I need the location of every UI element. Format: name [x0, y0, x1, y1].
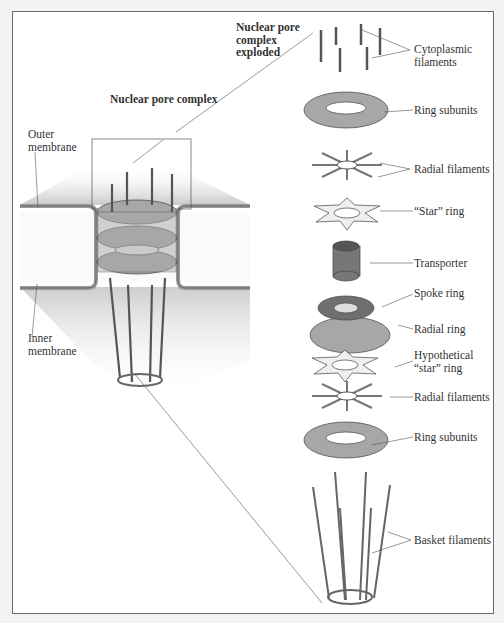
ring-subunits-top	[304, 92, 388, 128]
label-star-ring: “Star” ring	[414, 205, 464, 218]
hypothetical-star-ring	[312, 350, 378, 382]
transporter	[333, 241, 360, 281]
label-cytoplasmic-filaments: Cytoplasmicfilaments	[414, 43, 472, 68]
label-transporter: Transporter	[414, 257, 467, 270]
label-radial-filaments-bottom: Radial filaments	[414, 391, 490, 404]
exploded-stack	[304, 24, 390, 604]
label-nuclear-pore-complex: Nuclear pore complex	[110, 93, 218, 106]
label-radial-ring: Radial ring	[414, 323, 465, 336]
nuclear-pore-diagram	[0, 0, 504, 623]
radial-filaments-top	[312, 150, 382, 180]
radial-filaments-bottom	[312, 381, 382, 411]
label-ring-subunits-top: Ring subunits	[414, 104, 478, 117]
label-outer-membrane: Outermembrane	[28, 128, 77, 153]
label-hypothetical-star-ring: Hypothetical“star” ring	[414, 349, 473, 374]
ring-subunits-bottom	[304, 422, 388, 458]
label-spoke-ring: Spoke ring	[414, 287, 464, 300]
label-nuclear-pore-complex-exploded: Nuclear pore complex exploded	[236, 21, 306, 59]
cytoplasmic-filaments	[321, 24, 380, 72]
label-inner-membrane: Innermembrane	[28, 332, 77, 357]
star-ring	[314, 198, 380, 230]
label-ring-subunits-bottom: Ring subunits	[414, 431, 478, 444]
basket-filaments	[313, 472, 390, 604]
spoke-and-radial-ring	[310, 296, 390, 353]
label-basket-filaments: Basket filaments	[414, 534, 491, 547]
label-radial-filaments-top: Radial filaments	[414, 163, 490, 176]
